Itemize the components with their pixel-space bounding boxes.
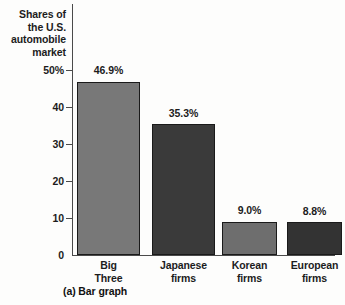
category-label-line: Big (72, 259, 145, 272)
bar-value-european-firms: 8.8% (278, 205, 345, 217)
category-label-big-three: Big Three (72, 259, 145, 284)
category-label-line: firms (278, 272, 345, 285)
bar-european-firms (287, 222, 342, 255)
category-label-european-firms: European firms (278, 259, 345, 284)
y-tick-label-10: 10 (4, 212, 64, 224)
x-axis-line (72, 255, 335, 256)
y-tick-mark-40 (66, 107, 73, 108)
y-tick-mark-30 (66, 144, 73, 145)
bar-value-big-three: 46.9% (72, 64, 145, 76)
category-label-line: Japanese (147, 259, 220, 272)
category-label-line: firms (147, 272, 220, 285)
bar-value-japanese-firms: 35.3% (147, 107, 220, 119)
category-label-line: European (278, 259, 345, 272)
y-tick-label-50: 50% (4, 64, 64, 76)
y-tick-mark-10 (66, 218, 73, 219)
y-tick-label-0: 0 (4, 249, 64, 261)
bar-japanese-firms (152, 124, 215, 255)
y-tick-mark-20 (66, 181, 73, 182)
bar-value-korean-firms: 9.0% (213, 204, 286, 216)
y-tick-label-40: 40 (4, 101, 64, 113)
category-label-line: Korean (213, 259, 286, 272)
y-tick-label-20: 20 (4, 175, 64, 187)
chart-axis-title: Shares of the U.S. automobile market (2, 8, 66, 58)
bar-korean-firms (222, 222, 277, 255)
category-label-line: Three (72, 272, 145, 285)
category-label-line: firms (213, 272, 286, 285)
category-label-korean-firms: Korean firms (213, 259, 286, 284)
y-tick-label-30: 30 (4, 138, 64, 150)
bar-big-three (77, 82, 140, 256)
bar-graph-figure: Shares of the U.S. automobile market 50%… (0, 0, 345, 305)
figure-caption: (a) Bar graph (63, 285, 127, 297)
category-label-japanese-firms: Japanese firms (147, 259, 220, 284)
